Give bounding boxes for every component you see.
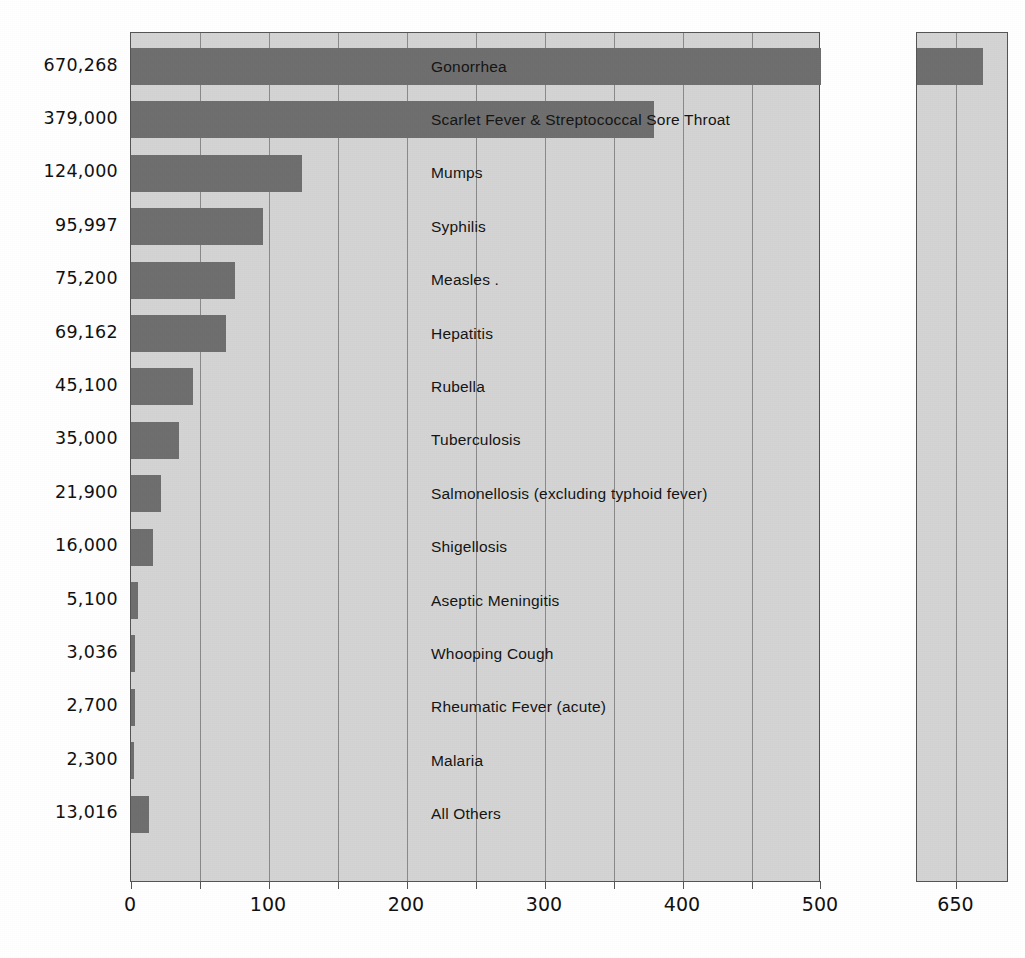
main-plot-inner: GonorrheaScarlet Fever & Streptococcal S…	[131, 33, 819, 881]
x-axis-tick-mark	[752, 881, 753, 889]
gridline	[752, 33, 753, 881]
axis-break-panel	[916, 32, 1008, 882]
x-axis-tick-mark	[338, 881, 339, 889]
x-axis-tick-label: 500	[802, 893, 838, 915]
bar-category-label: Syphilis	[431, 218, 486, 236]
bar	[131, 262, 235, 299]
bar-category-label: Scarlet Fever & Streptococcal Sore Throa…	[431, 111, 730, 129]
x-axis-tick-label: 200	[388, 893, 424, 915]
bar	[131, 475, 161, 512]
x-axis-tick-mark	[683, 881, 684, 889]
x-axis-tick-mark	[200, 881, 201, 889]
x-axis-tick-mark	[476, 881, 477, 889]
bar-value-label: 75,200	[0, 268, 118, 288]
bar-category-label: Tuberculosis	[431, 431, 521, 449]
gridline	[545, 33, 546, 881]
bar-value-label: 124,000	[0, 161, 118, 181]
bar-category-label: Salmonellosis (excluding typhoid fever)	[431, 485, 708, 503]
bar-value-label: 379,000	[0, 108, 118, 128]
bar-category-label: Gonorrhea	[431, 58, 507, 76]
bar	[131, 208, 263, 245]
bar	[131, 422, 179, 459]
x-axis-tick-mark	[614, 881, 615, 889]
x-axis-tick-label-break: 650	[937, 893, 973, 915]
bar-category-label: Shigellosis	[431, 538, 507, 556]
disease-cases-bar-chart: 670,268379,000124,00095,99775,20069,1624…	[0, 0, 1025, 958]
x-axis-tick-mark	[269, 881, 270, 889]
bar-value-label: 35,000	[0, 428, 118, 448]
bar	[131, 582, 138, 619]
bar-value-label: 21,900	[0, 482, 118, 502]
bar	[131, 742, 134, 779]
bar-category-label: Rubella	[431, 378, 485, 396]
bar	[131, 155, 302, 192]
bar-value-label: 3,036	[0, 642, 118, 662]
bar-value-label: 69,162	[0, 322, 118, 342]
x-axis-tick-label: 300	[526, 893, 562, 915]
gridline	[956, 33, 957, 881]
value-label-axis: 670,268379,000124,00095,99775,20069,1624…	[0, 32, 118, 882]
bar-category-label: Whooping Cough	[431, 645, 554, 663]
gridline	[614, 33, 615, 881]
bar-category-label: Malaria	[431, 752, 483, 770]
x-axis-tick-label: 400	[664, 893, 700, 915]
x-axis-tick-label: 0	[124, 893, 136, 915]
bar-value-label: 13,016	[0, 802, 118, 822]
x-axis-tick-label: 100	[250, 893, 286, 915]
bar-continuation	[917, 48, 983, 85]
bar-value-label: 2,700	[0, 695, 118, 715]
bar-category-label: Mumps	[431, 164, 483, 182]
bar-value-label: 16,000	[0, 535, 118, 555]
bar-value-label: 95,997	[0, 215, 118, 235]
x-axis-tick-mark	[545, 881, 546, 889]
bar-category-label: Rheumatic Fever (acute)	[431, 698, 606, 716]
gridline	[407, 33, 408, 881]
bar-value-label: 670,268	[0, 55, 118, 75]
bar	[131, 796, 149, 833]
gridline	[683, 33, 684, 881]
x-axis-tick-mark	[131, 881, 132, 889]
bar-category-label: Aseptic Meningitis	[431, 592, 560, 610]
main-plot-panel: GonorrheaScarlet Fever & Streptococcal S…	[130, 32, 820, 882]
bar	[131, 689, 135, 726]
bar	[131, 315, 226, 352]
bar-value-label: 5,100	[0, 589, 118, 609]
bar-category-label: All Others	[431, 805, 501, 823]
x-axis-tick-mark	[820, 881, 821, 889]
bar-category-label: Hepatitis	[431, 325, 493, 343]
bar-value-label: 2,300	[0, 749, 118, 769]
bar	[131, 529, 153, 566]
bar	[131, 635, 135, 672]
bar	[131, 368, 193, 405]
bar-category-label: Measles .	[431, 271, 499, 289]
bar-value-label: 45,100	[0, 375, 118, 395]
x-axis-tick-mark	[956, 881, 957, 889]
gridline	[338, 33, 339, 881]
x-axis-tick-mark	[407, 881, 408, 889]
